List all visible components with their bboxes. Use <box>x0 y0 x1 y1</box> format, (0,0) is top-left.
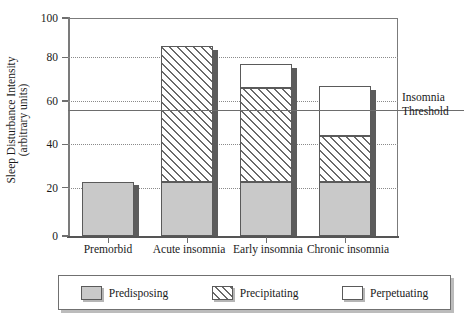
bar-segment-perpetuating-chronic-insomnia <box>319 86 371 136</box>
y-tick-label-20: 20 <box>32 182 58 194</box>
bar-group-chronic-insomnia <box>319 18 371 236</box>
legend-swatch-precipitating <box>212 286 233 300</box>
bar-segment-perpetuating-early-insomnia <box>240 64 292 88</box>
legend-label-predisposing: Predisposing <box>109 287 168 299</box>
x-axis-label-premorbid: Premorbid <box>84 243 133 255</box>
bar-segment-precipitating-early-insomnia <box>240 88 292 182</box>
x-axis-line <box>67 236 399 238</box>
y-axis-title: Sleep Disturbance Intensity (arbitrary u… <box>0 0 34 240</box>
bar-shadow-premorbid <box>134 185 139 236</box>
x-axis-label-chronic-insomnia: Chronic insomnia <box>307 243 389 255</box>
y-tick-label-40: 40 <box>32 138 58 150</box>
bar-group-acute-insomnia <box>161 18 213 236</box>
bar-segment-predisposing-premorbid <box>82 182 134 237</box>
bar-shadow-chronic-insomnia <box>371 90 376 236</box>
legend-item-perpetuating: Perpetuating <box>342 286 428 300</box>
legend-label-perpetuating: Perpetuating <box>370 287 428 299</box>
y-tick-label-60: 60 <box>32 95 58 107</box>
legend-item-predisposing: Predisposing <box>81 286 168 300</box>
y-tick-label-0: 0 <box>32 230 58 242</box>
sleep-disturbance-stacked-bar-chart: Sleep Disturbance Intensity (arbitrary u… <box>0 0 464 326</box>
legend-swatch-predisposing <box>81 286 102 300</box>
bar-group-early-insomnia <box>240 18 292 236</box>
legend-item-precipitating: Precipitating <box>212 286 299 300</box>
threshold-label-line-2: Threshold <box>402 105 449 118</box>
bar-shadow-acute-insomnia <box>213 50 218 236</box>
bar-segment-predisposing-early-insomnia <box>240 182 292 237</box>
bar-shadow-early-insomnia <box>292 68 297 236</box>
legend-swatch-perpetuating <box>342 286 363 300</box>
bars-layer <box>68 18 398 236</box>
legend: Predisposing Precipitating Perpetuating <box>58 275 451 310</box>
bar-segment-predisposing-chronic-insomnia <box>319 182 371 237</box>
x-axis-label-acute-insomnia: Acute insomnia <box>153 243 226 255</box>
threshold-label-line-1: Insomnia <box>402 91 449 105</box>
bar-segment-precipitating-acute-insomnia <box>161 46 213 181</box>
bar-group-premorbid <box>82 18 134 236</box>
x-axis-label-early-insomnia: Early insomnia <box>233 243 303 255</box>
y-axis-title-line-1: Sleep Disturbance Intensity <box>5 56 17 183</box>
insomnia-threshold-label: Insomnia Threshold <box>402 91 449 117</box>
bar-segment-precipitating-chronic-insomnia <box>319 136 371 182</box>
legend-label-precipitating: Precipitating <box>240 287 299 299</box>
bar-segment-predisposing-acute-insomnia <box>161 182 213 237</box>
y-axis-title-line-2: (arbitrary units) <box>17 84 29 157</box>
y-tick-label-100: 100 <box>32 12 58 24</box>
y-tick-label-80: 80 <box>32 51 58 63</box>
